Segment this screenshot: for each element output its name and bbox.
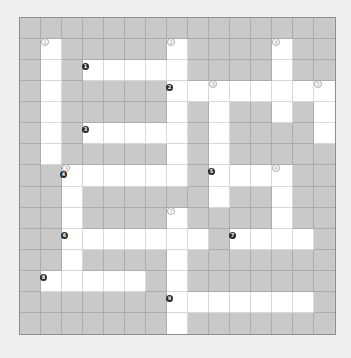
open-cell[interactable]: 7 <box>167 208 188 229</box>
blocked-cell <box>314 292 335 313</box>
open-cell[interactable] <box>167 123 188 144</box>
open-cell[interactable]: 5 <box>314 81 335 102</box>
open-cell[interactable] <box>230 292 251 313</box>
open-cell[interactable] <box>104 165 125 186</box>
open-cell[interactable] <box>104 229 125 250</box>
open-cell[interactable] <box>251 229 272 250</box>
open-cell[interactable] <box>272 292 293 313</box>
blocked-cell <box>62 313 83 334</box>
across-clue-number: 3 <box>82 126 89 133</box>
blocked-cell <box>230 271 251 292</box>
open-cell[interactable] <box>167 313 188 334</box>
open-cell[interactable] <box>293 81 314 102</box>
blocked-cell <box>125 102 146 123</box>
open-cell[interactable] <box>209 123 230 144</box>
open-cell[interactable]: 34 <box>62 165 83 186</box>
open-cell[interactable] <box>146 123 167 144</box>
open-cell[interactable]: 3 <box>83 123 104 144</box>
open-cell[interactable] <box>104 60 125 81</box>
open-cell[interactable] <box>62 250 83 271</box>
open-cell[interactable] <box>209 292 230 313</box>
open-cell[interactable] <box>104 123 125 144</box>
blocked-cell <box>62 144 83 165</box>
open-cell[interactable] <box>146 60 167 81</box>
open-cell[interactable] <box>188 81 209 102</box>
open-cell[interactable] <box>209 187 230 208</box>
open-cell[interactable] <box>125 229 146 250</box>
open-cell[interactable]: 2 <box>167 81 188 102</box>
open-cell[interactable] <box>272 60 293 81</box>
open-cell[interactable] <box>83 271 104 292</box>
open-cell[interactable] <box>167 165 188 186</box>
open-cell[interactable] <box>251 292 272 313</box>
open-cell[interactable] <box>188 229 209 250</box>
blocked-cell <box>20 123 41 144</box>
open-cell[interactable]: 9 <box>167 292 188 313</box>
open-cell[interactable]: 6 <box>62 229 83 250</box>
blocked-cell <box>230 208 251 229</box>
open-cell[interactable] <box>188 292 209 313</box>
open-cell[interactable]: 6 <box>272 165 293 186</box>
open-cell[interactable] <box>251 81 272 102</box>
blocked-cell <box>293 271 314 292</box>
open-cell[interactable] <box>83 229 104 250</box>
blocked-cell <box>146 102 167 123</box>
open-cell[interactable] <box>230 81 251 102</box>
open-cell[interactable] <box>62 271 83 292</box>
blocked-cell <box>41 292 62 313</box>
open-cell[interactable] <box>104 271 125 292</box>
open-cell[interactable] <box>62 187 83 208</box>
open-cell[interactable]: 8 <box>41 271 62 292</box>
blocked-cell <box>230 187 251 208</box>
blocked-cell <box>83 18 104 39</box>
across-clue-number: 4 <box>60 171 67 178</box>
open-cell[interactable]: 1 <box>41 39 62 60</box>
open-cell[interactable] <box>41 144 62 165</box>
open-cell[interactable] <box>272 187 293 208</box>
open-cell[interactable] <box>125 60 146 81</box>
blocked-cell <box>104 250 125 271</box>
open-cell[interactable] <box>125 271 146 292</box>
open-cell[interactable] <box>83 165 104 186</box>
open-cell[interactable] <box>272 229 293 250</box>
open-cell[interactable] <box>230 165 251 186</box>
open-cell[interactable] <box>167 102 188 123</box>
open-cell[interactable] <box>167 144 188 165</box>
open-cell[interactable] <box>272 208 293 229</box>
open-cell[interactable] <box>209 144 230 165</box>
open-cell[interactable]: 5 <box>209 165 230 186</box>
blocked-cell <box>146 271 167 292</box>
blocked-cell <box>20 208 41 229</box>
open-cell[interactable] <box>62 208 83 229</box>
open-cell[interactable] <box>41 102 62 123</box>
open-cell[interactable] <box>125 165 146 186</box>
blocked-cell <box>104 208 125 229</box>
open-cell[interactable] <box>209 102 230 123</box>
open-cell[interactable] <box>272 81 293 102</box>
open-cell[interactable] <box>314 123 335 144</box>
open-cell[interactable] <box>293 229 314 250</box>
open-cell[interactable] <box>251 165 272 186</box>
open-cell[interactable]: 2 <box>167 39 188 60</box>
open-cell[interactable]: 4 <box>272 39 293 60</box>
open-cell[interactable] <box>293 292 314 313</box>
blocked-cell <box>251 123 272 144</box>
blocked-cell <box>125 250 146 271</box>
open-cell[interactable]: 3 <box>209 81 230 102</box>
blocked-cell <box>314 60 335 81</box>
open-cell[interactable] <box>146 229 167 250</box>
open-cell[interactable] <box>41 81 62 102</box>
open-cell[interactable]: 7 <box>230 229 251 250</box>
open-cell[interactable] <box>125 123 146 144</box>
open-cell[interactable] <box>167 60 188 81</box>
open-cell[interactable] <box>41 60 62 81</box>
open-cell[interactable] <box>272 102 293 123</box>
blocked-cell <box>83 187 104 208</box>
open-cell[interactable] <box>167 271 188 292</box>
open-cell[interactable]: 1 <box>83 60 104 81</box>
open-cell[interactable] <box>41 123 62 144</box>
open-cell[interactable] <box>167 250 188 271</box>
open-cell[interactable] <box>146 165 167 186</box>
open-cell[interactable] <box>314 102 335 123</box>
open-cell[interactable] <box>167 229 188 250</box>
